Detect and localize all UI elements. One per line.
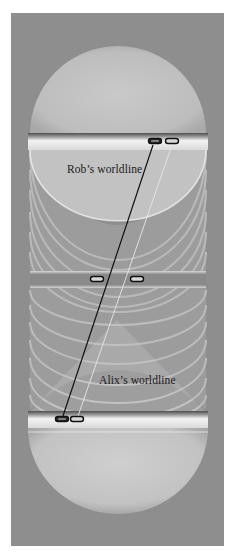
middle-slice bbox=[30, 271, 206, 288]
capsule-window bbox=[151, 140, 159, 142]
alix-capsule-middle bbox=[131, 277, 144, 282]
alix-capsule-bottom bbox=[71, 417, 84, 422]
alix-capsule-top bbox=[166, 139, 179, 144]
alix-worldline-label: Alix’s worldline bbox=[99, 374, 176, 386]
rob-worldline-label: Rob’s worldline bbox=[67, 163, 142, 175]
rob-capsule-middle bbox=[91, 277, 104, 282]
capsule-window bbox=[58, 418, 66, 420]
top-slice bbox=[28, 133, 208, 150]
spacetime-diagram: Rob’s worldline Alix’s worldline bbox=[0, 0, 234, 560]
diagram-canvas bbox=[0, 0, 234, 560]
